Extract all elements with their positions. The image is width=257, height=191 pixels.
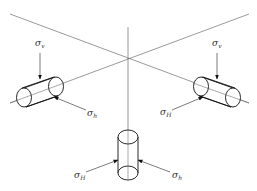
label-left-top: σv <box>35 38 45 49</box>
left-cylinder-back-face <box>17 88 32 107</box>
left-cylinder-front-face <box>49 77 64 96</box>
arrow-bottom-sigma-h-upper <box>86 160 118 172</box>
label-bottom-left: σH <box>74 170 86 181</box>
arrow-right-sigma-h-upper <box>172 97 203 110</box>
arrow-bottom-sigma-h <box>138 160 170 172</box>
label-left-bottom: σh <box>87 108 97 119</box>
label-bottom-right: σh <box>172 170 182 181</box>
left-cylinder <box>10 77 64 107</box>
axes <box>10 14 249 132</box>
stress-diagram: σv σh σv σH σH σh <box>0 0 257 191</box>
arrow-left-sigma-h <box>54 97 86 110</box>
right-cylinder <box>193 77 249 107</box>
label-right-bottom: σH <box>160 107 172 118</box>
bottom-cylinder <box>118 130 138 180</box>
label-right-top: σv <box>212 38 222 49</box>
right-cylinder-front-face <box>194 77 209 96</box>
